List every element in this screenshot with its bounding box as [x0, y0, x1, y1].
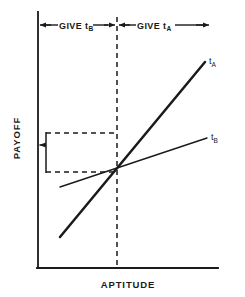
give-ta-label: GIVE tA — [137, 21, 172, 33]
axis-lines — [37, 12, 218, 268]
give-tb-label: GIVE tB — [59, 21, 94, 33]
region-annotation-group: GIVE tB GIVE tA — [40, 21, 209, 33]
curve-t-a-label: tA — [209, 56, 217, 68]
curve-t-b-line — [60, 138, 207, 187]
curve-t-b-label: tB — [211, 132, 219, 144]
payoff-gap-bracket-group — [40, 132, 118, 173]
aptitude-treatment-interaction-figure: GIVE tB GIVE tA tA — [0, 0, 245, 297]
chart-canvas: GIVE tB GIVE tA tA — [0, 0, 245, 297]
curve-t-a-line — [60, 62, 205, 237]
y-axis-title: PAYOFF — [11, 117, 22, 159]
payoff-curves-group — [60, 62, 207, 237]
x-axis-title: APTITUDE — [101, 279, 156, 290]
